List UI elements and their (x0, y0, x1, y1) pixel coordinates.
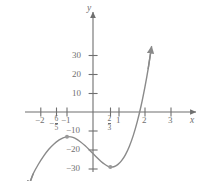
y-tick-label-20: 20 (72, 70, 81, 79)
x-axis-label: x (190, 116, 194, 126)
x-tick-label-2: 2 (142, 116, 147, 125)
x-tick-label-2-3: 2 3 (107, 115, 111, 131)
marked-point-local-maximum (65, 135, 69, 139)
y-tick-label--10: −10 (66, 126, 80, 135)
y-tick-label-30: 30 (72, 51, 81, 60)
cubic-curve (29, 52, 150, 181)
fraction-numerator: 6 (55, 115, 59, 123)
y-tick-label-10: 10 (72, 89, 81, 98)
y-axis-label: y (87, 4, 91, 14)
x-tick-label--1: −1 (61, 116, 71, 125)
x-tick-label--6-5: − 6 5 (49, 115, 58, 131)
x-tick-label-3: 3 (168, 116, 173, 125)
fraction-sign: − (49, 119, 54, 128)
x-tick-label--2: −2 (35, 116, 45, 125)
curve-arrow-upper-right (148, 46, 152, 69)
curve-arrow-lower-left (28, 174, 33, 181)
fraction-numerator: 2 (108, 115, 112, 123)
cubic-function-graph: y x −2 − 6 5 −1 2 3 1 2 3 30 20 10 −10 −… (0, 0, 212, 181)
fraction-denominator: 5 (55, 123, 59, 132)
plot-canvas (0, 0, 212, 181)
marked-point-local-minimum (108, 165, 112, 169)
y-tick-label--30: −30 (66, 164, 80, 173)
x-tick-label-1: 1 (116, 116, 121, 125)
y-tick-label--20: −20 (66, 145, 80, 154)
fraction-denominator: 3 (108, 123, 112, 132)
